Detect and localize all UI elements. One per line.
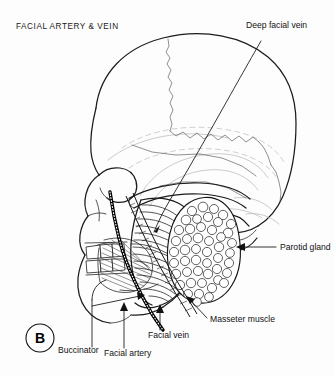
label-facial-artery: Facial artery	[104, 348, 152, 358]
figure-background	[0, 0, 334, 377]
label-deep-facial-vein: Deep facial vein	[246, 20, 307, 30]
facial-artery-vein-figure: B FACIAL ARTERY & VEIN Deep facial vein …	[0, 0, 334, 377]
anatomy-illustration: B FACIAL ARTERY & VEIN Deep facial vein …	[0, 0, 334, 377]
panel-marker-letter: B	[35, 330, 45, 346]
label-facial-vein: Facial vein	[148, 330, 189, 340]
label-buccinator: Buccinator	[58, 345, 99, 355]
label-parotid-gland: Parotid gland	[280, 242, 331, 252]
label-masseter-muscle: Masseter muscle	[210, 314, 275, 324]
figure-title: FACIAL ARTERY & VEIN	[16, 22, 119, 31]
